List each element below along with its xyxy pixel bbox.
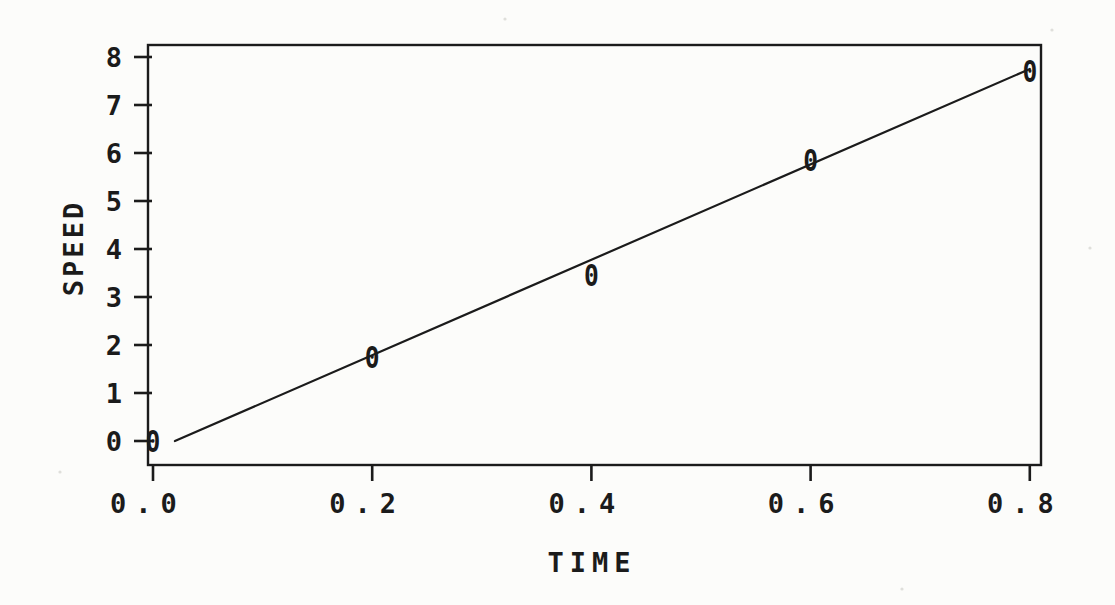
data-point-marker: 0 [584, 259, 599, 293]
data-point-marker: 0 [146, 425, 161, 459]
y-tick-label: 0 [106, 426, 122, 457]
scan-speck [900, 587, 903, 590]
data-point-marker: 0 [365, 341, 380, 375]
y-tick-label: 8 [106, 42, 122, 73]
speed-time-chart: 0123456780.00.20.40.60.800000 [0, 0, 1115, 605]
y-tick-label: 5 [106, 186, 122, 217]
x-tick-label: 0.4 [549, 488, 625, 519]
scan-speck [503, 17, 506, 20]
y-axis-title: SPEED [58, 200, 89, 296]
scan-speck [58, 470, 61, 473]
y-tick-label: 6 [106, 138, 122, 169]
scan-speck [1088, 246, 1091, 249]
plot-frame [148, 45, 1041, 465]
y-tick-label: 3 [106, 282, 122, 313]
data-point-marker: 0 [1022, 55, 1037, 89]
scan-speck [1050, 28, 1053, 31]
x-tick-label: 0.0 [110, 488, 186, 519]
x-tick-label: 0.6 [768, 488, 844, 519]
scanned-chart-page: 0123456780.00.20.40.60.800000 SPEED TIME [0, 0, 1115, 605]
x-tick-label: 0.2 [329, 488, 405, 519]
fit-line [175, 69, 1030, 441]
y-tick-label: 7 [106, 90, 122, 121]
data-point-marker: 0 [803, 144, 818, 178]
y-tick-label: 4 [106, 234, 122, 265]
y-tick-label: 1 [106, 378, 122, 409]
x-tick-label: 0.8 [987, 488, 1063, 519]
y-tick-label: 2 [106, 330, 122, 361]
x-axis-title: TIME [547, 547, 636, 578]
